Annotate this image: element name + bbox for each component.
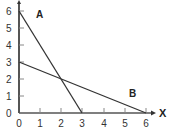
svg-text:4: 4 [101, 118, 107, 129]
y-tick-labels: 0 1 2 3 4 5 6 [6, 6, 12, 119]
series-a-label: A [36, 9, 43, 20]
svg-text:0: 0 [16, 118, 22, 129]
x-axis-arrow-icon [151, 111, 156, 116]
svg-text:3: 3 [6, 57, 12, 68]
svg-text:2: 2 [6, 74, 12, 85]
svg-text:1: 1 [37, 118, 43, 129]
series-a-line [19, 11, 82, 113]
svg-text:2: 2 [58, 118, 64, 129]
svg-text:6: 6 [143, 118, 149, 129]
svg-text:5: 5 [122, 118, 128, 129]
series-b-line [19, 62, 146, 113]
svg-text:0: 0 [6, 108, 12, 119]
x-axis-label: X [159, 107, 167, 119]
x-tick-labels: 0 1 2 3 4 5 6 [16, 118, 149, 129]
y-axis-arrow-icon [17, 0, 21, 4]
series-b-label: B [129, 88, 136, 99]
line-chart: X 0 1 2 3 4 5 6 0 1 2 3 4 5 6 A B [0, 0, 169, 135]
svg-text:6: 6 [6, 6, 12, 17]
svg-text:3: 3 [79, 118, 85, 129]
svg-text:4: 4 [6, 40, 12, 51]
svg-text:1: 1 [6, 91, 12, 102]
svg-text:5: 5 [6, 23, 12, 34]
